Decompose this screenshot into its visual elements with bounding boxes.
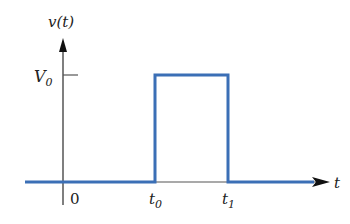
- pulse-diagram: v(t) V0 0 t0 t1 t: [0, 0, 350, 224]
- t-axis-label: t: [334, 174, 341, 192]
- v0-label: V0: [34, 67, 53, 89]
- y-axis-label: v(t): [48, 13, 74, 31]
- t1-label: t1: [222, 190, 235, 211]
- y-axis-arrow-icon: [59, 38, 67, 52]
- pulse-signal: [25, 75, 314, 182]
- origin-label: 0: [70, 190, 80, 208]
- t0-label: t0: [149, 190, 162, 211]
